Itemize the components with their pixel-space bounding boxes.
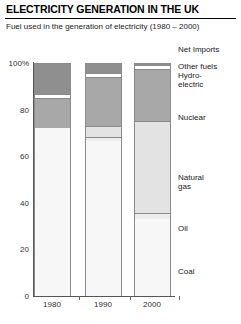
bar-1980[interactable]	[34, 63, 71, 296]
y-axis-tick-label: 0	[0, 292, 29, 301]
chart-subtitle: Fuel used in the generation of electrici…	[6, 22, 199, 31]
bar-1990[interactable]	[85, 63, 122, 296]
bar-segment-coal[interactable]	[86, 141, 121, 296]
x-axis-tick-mark	[179, 296, 180, 300]
bar-segment-nuclear[interactable]	[86, 77, 121, 126]
annotation-other-fuels: Other fuels	[178, 62, 217, 71]
bar-segment-coal[interactable]	[35, 128, 70, 296]
bar-segment-coal[interactable]	[135, 219, 170, 296]
x-axis-tick-mark	[79, 296, 80, 300]
y-axis-tick-label: 60	[0, 152, 29, 161]
x-axis-tick-label: 1990	[94, 300, 112, 309]
annotation-nuclear: Nuclear	[178, 113, 206, 122]
bar-segment-oil[interactable]	[135, 213, 170, 219]
y-axis-tick-label: 20	[0, 245, 29, 254]
annotation-hydro-electric: Hydro- electric	[178, 71, 203, 89]
x-axis-tick-label: 2000	[143, 300, 161, 309]
y-axis-tick-label: 40	[0, 198, 29, 207]
bar-segment-natural-gas[interactable]	[86, 126, 121, 136]
bar-segment-oil[interactable]	[86, 137, 121, 141]
bar-segment-hydro-electric[interactable]	[35, 94, 70, 97]
bar-segment-natural-gas[interactable]	[135, 121, 170, 213]
annotation-net-imports: Net Imports	[178, 45, 219, 54]
bar-2000[interactable]	[134, 63, 171, 296]
page-title: ELECTRICITY GENERATION IN THE UK	[6, 3, 199, 15]
annotation-natural-gas: Natural gas	[178, 173, 204, 191]
x-axis-tick-mark	[130, 296, 131, 300]
x-axis-tick-label: 1980	[43, 300, 61, 309]
annotation-oil: Oil	[178, 224, 188, 233]
plot-area	[33, 63, 174, 296]
chart-container: ELECTRICITY GENERATION IN THE UK Fuel us…	[0, 0, 241, 324]
bar-segment-other-fuels[interactable]	[86, 63, 121, 73]
title-divider	[5, 18, 236, 19]
bar-segment-other-fuels[interactable]	[135, 63, 170, 65]
x-axis-line	[33, 296, 175, 297]
bar-segment-other-fuels[interactable]	[35, 63, 70, 94]
bar-segment-nuclear[interactable]	[35, 98, 70, 128]
bar-segment-hydro-electric[interactable]	[135, 65, 170, 68]
bar-segment-hydro-electric[interactable]	[86, 73, 121, 78]
bar-segment-nuclear[interactable]	[135, 69, 170, 121]
annotation-coal: Coal	[178, 267, 194, 276]
y-axis-tick-label: 100%	[0, 59, 29, 68]
y-axis-tick-label: 80	[0, 105, 29, 114]
